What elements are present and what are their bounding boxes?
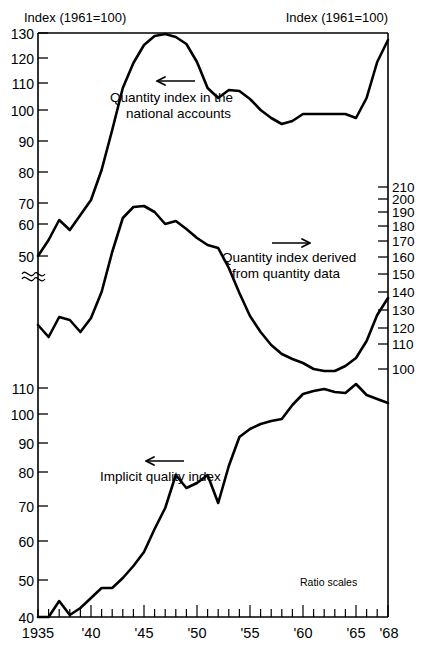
lower-tick-label-90: 90 xyxy=(18,436,34,452)
series-line-quantity-index-national-accounts xyxy=(38,34,388,256)
right-axis-ticks xyxy=(378,187,388,344)
x-tick-label-1945: '45 xyxy=(135,625,154,641)
annotation-label: Implicit quality index xyxy=(100,469,221,484)
chart-figure: Index (1961=100) Index (1961=100) 130 12… xyxy=(0,0,425,650)
annotation-implicit-quality-index: Implicit quality index xyxy=(100,457,221,484)
left-upper-axis-labels: 130 120 110 100 90 80 70 60 50 xyxy=(11,26,35,265)
right-tick-label-130: 130 xyxy=(392,303,415,318)
lower-tick-label-70: 70 xyxy=(18,499,34,515)
x-tick-label-1968: '68 xyxy=(380,625,399,641)
x-axis-minor-ticks xyxy=(38,605,388,617)
arrow-right-icon xyxy=(272,239,310,247)
x-tick-label-1950: '50 xyxy=(188,625,207,641)
x-axis-labels: 1935 '40 '45 '50 '55 '60 '65 '68 xyxy=(22,625,399,641)
right-tick-label-160: 160 xyxy=(392,250,415,265)
arrow-left-icon xyxy=(157,77,195,85)
x-tick-label-1965: '65 xyxy=(347,625,366,641)
x-tick-label-1955: '55 xyxy=(241,625,260,641)
left-axis-title: Index (1961=100) xyxy=(24,10,126,25)
lower-tick-label-110: 110 xyxy=(12,381,35,397)
series-line-quantity-index-derived xyxy=(38,206,388,371)
right-tick-label-100: 100 xyxy=(392,362,415,377)
left-lower-axis-ticks xyxy=(38,388,48,617)
tick-label-90: 90 xyxy=(18,134,34,150)
left-lower-axis-labels: 110 100 90 80 70 60 50 40 xyxy=(11,381,35,626)
x-tick-label-1940: '40 xyxy=(82,625,101,641)
left-upper-axis-ticks xyxy=(38,33,48,256)
lower-tick-label-80: 80 xyxy=(18,465,34,481)
right-axis-labels: 210 200 190 180 170 160 150 140 130 120 … xyxy=(392,180,415,377)
tick-label-100: 100 xyxy=(11,103,35,119)
tick-label-60: 60 xyxy=(18,217,34,233)
right-tick-label-180: 180 xyxy=(392,219,415,234)
annotation-line-2: national accounts xyxy=(126,106,231,121)
right-axis-title: Index (1961=100) xyxy=(286,10,388,25)
tick-label-80: 80 xyxy=(18,165,34,181)
right-tick-label-140: 140 xyxy=(392,285,415,300)
annotation-quantity-index-national-accounts: Quantity index in the national accounts xyxy=(110,77,233,121)
tick-label-130: 130 xyxy=(11,26,35,42)
annotation-line-2: from quantity data xyxy=(232,266,341,281)
chart-canvas: Index (1961=100) Index (1961=100) 130 12… xyxy=(0,0,425,650)
ratio-scales-note: Ratio scales xyxy=(300,576,357,588)
lower-tick-label-100: 100 xyxy=(11,407,35,423)
axis-break-squiggle-icon xyxy=(22,272,45,281)
tick-label-70: 70 xyxy=(18,196,34,212)
annotation-line-1: Quantity index in the xyxy=(110,90,233,105)
annotation-line-1: Quantity index derived xyxy=(222,250,356,265)
right-tick-label-190: 190 xyxy=(392,205,415,220)
annotation-quantity-index-derived: Quantity index derived from quantity dat… xyxy=(222,239,356,281)
x-tick-label-1935: 1935 xyxy=(22,625,54,641)
right-tick-label-150: 150 xyxy=(392,267,415,282)
lower-tick-label-40: 40 xyxy=(18,610,34,626)
tick-label-110: 110 xyxy=(12,76,35,92)
lower-tick-label-50: 50 xyxy=(18,573,34,589)
right-tick-label-120: 120 xyxy=(392,321,415,336)
lower-tick-label-60: 60 xyxy=(18,534,34,550)
tick-label-120: 120 xyxy=(11,51,35,67)
x-tick-label-1960: '60 xyxy=(294,625,313,641)
right-tick-label-110: 110 xyxy=(392,337,414,352)
arrow-left-icon xyxy=(146,457,184,465)
right-tick-label-170: 170 xyxy=(392,234,415,249)
tick-label-50: 50 xyxy=(18,249,34,265)
